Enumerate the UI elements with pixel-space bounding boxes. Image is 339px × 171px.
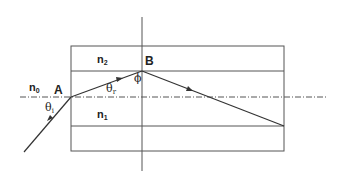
label-n2: n2 [97, 54, 108, 66]
label-n0: n0 [29, 82, 40, 94]
diagram-graphics [0, 0, 339, 171]
label-point-a: A [54, 84, 63, 96]
arrow-icon-reflected [186, 86, 193, 91]
reflected-ray [142, 71, 284, 126]
label-theta-i: θi [45, 102, 54, 115]
label-point-b: B [145, 55, 154, 67]
waveguide-diagram: n0 A n2 B θr ϕ θi n1 [0, 0, 339, 171]
label-theta-r: θr [106, 83, 116, 96]
label-phi: ϕ [134, 73, 142, 84]
arrow-icon-incident [47, 115, 53, 121]
label-n1: n1 [97, 109, 108, 121]
